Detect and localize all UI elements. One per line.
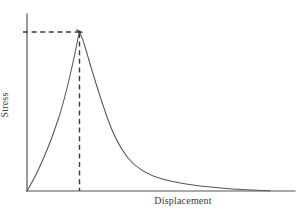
chart-canvas: [0, 0, 304, 216]
curve-group: [27, 33, 270, 192]
x-axis-label: Displacement: [128, 195, 238, 206]
y-axis-label: Stress: [0, 89, 10, 121]
stress-displacement-curve: [27, 33, 270, 192]
stress-displacement-figure: Stress Displacement: [0, 0, 304, 216]
peak-guides-group: [23, 32, 80, 191]
axes-group: [27, 14, 295, 191]
